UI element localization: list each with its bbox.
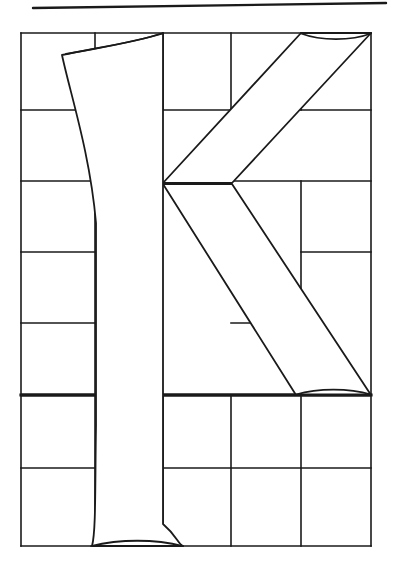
grid-horizontal-lines (21, 33, 371, 546)
k-leg-shape (163, 184, 371, 395)
figure-page (0, 0, 399, 576)
k-upper-arm-shape (163, 33, 371, 183)
top-rule (33, 3, 386, 8)
top-rule-group (33, 3, 386, 8)
letter-construction-figure (0, 0, 399, 576)
